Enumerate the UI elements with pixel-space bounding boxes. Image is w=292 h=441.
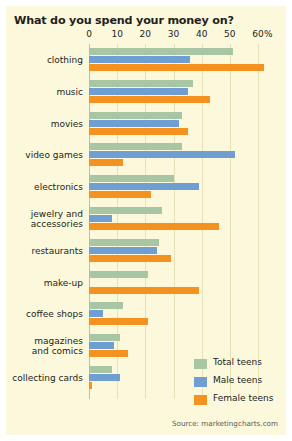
- legend-item: Total teens: [194, 357, 286, 375]
- category-label: video games: [5, 150, 83, 160]
- x-tick-label-20: 20: [140, 29, 151, 39]
- x-tick-label-10: 10: [111, 29, 122, 39]
- bar-female: [89, 191, 151, 198]
- x-tick-label-60: 60: [252, 29, 263, 39]
- x-tick-label-0: 0: [86, 29, 92, 39]
- bar-female: [89, 255, 171, 262]
- chart-title: What do you spend your money on?: [14, 14, 278, 27]
- bar-male: [89, 247, 157, 254]
- category-label: clothing: [5, 55, 83, 65]
- bar-row: music: [89, 80, 258, 104]
- bar-row: electronics: [89, 175, 258, 199]
- bar-female: [89, 318, 148, 325]
- bar-row: magazines and comics: [89, 334, 258, 358]
- bar-female: [89, 96, 210, 103]
- legend-label: Male teens: [213, 375, 262, 385]
- category-label: coffee shops: [5, 309, 83, 319]
- bar-male: [89, 310, 103, 317]
- bar-total: [89, 112, 182, 119]
- bar-total: [89, 80, 193, 87]
- legend-swatch-icon: [194, 359, 207, 369]
- bar-female: [89, 382, 92, 389]
- bar-row: clothing: [89, 48, 258, 72]
- bar-total: [89, 239, 159, 246]
- bar-male: [89, 374, 120, 381]
- legend-label: Total teens: [213, 357, 262, 367]
- bar-total: [89, 48, 233, 55]
- bar-total: [89, 271, 148, 278]
- bar-female: [89, 128, 188, 135]
- bar-female: [89, 350, 128, 357]
- legend-item: Female teens: [194, 393, 286, 411]
- legend-label: Female teens: [213, 393, 273, 403]
- bar-total: [89, 302, 123, 309]
- bar-total: [89, 175, 174, 182]
- bar-male: [89, 151, 235, 158]
- bar-female: [89, 287, 199, 294]
- bar-female: [89, 159, 123, 166]
- bar-male: [89, 56, 190, 63]
- bar-male: [89, 88, 188, 95]
- category-label: movies: [5, 119, 83, 129]
- bar-row: make-up: [89, 271, 258, 295]
- bar-male: [89, 215, 112, 222]
- category-label: electronics: [5, 182, 83, 192]
- category-label: restaurants: [5, 246, 83, 256]
- category-label: collecting cards: [5, 373, 83, 383]
- category-label: jewelry and accessories: [5, 209, 83, 229]
- category-label: make-up: [5, 278, 83, 288]
- category-label: music: [5, 87, 83, 97]
- bar-row: jewelry and accessories: [89, 207, 258, 231]
- bar-row: movies: [89, 112, 258, 136]
- legend-swatch-icon: [194, 395, 207, 405]
- bar-total: [89, 143, 182, 150]
- bar-male: [89, 342, 114, 349]
- chart-legend: Total teensMale teensFemale teens: [194, 357, 286, 411]
- legend-item: Male teens: [194, 375, 286, 393]
- x-tick-label-50: 50: [224, 29, 235, 39]
- bar-male: [89, 120, 179, 127]
- bar-total: [89, 207, 162, 214]
- gridline-60: [258, 44, 259, 399]
- bar-row: video games: [89, 143, 258, 167]
- plot-area: 0102030405060 % clothingmusicmoviesvideo…: [89, 44, 258, 399]
- bar-total: [89, 366, 112, 373]
- bar-female: [89, 223, 219, 230]
- category-label: magazines and comics: [5, 336, 83, 356]
- legend-swatch-icon: [194, 377, 207, 387]
- bar-female: [89, 64, 264, 71]
- x-tick-label-40: 40: [196, 29, 207, 39]
- percent-sign-label: %: [264, 29, 273, 39]
- bar-male: [89, 183, 199, 190]
- source-note: Source: marketingcharts.com: [172, 419, 278, 428]
- bar-row: restaurants: [89, 239, 258, 263]
- x-tick-label-30: 30: [168, 29, 179, 39]
- chart-card: What do you spend your money on? 0102030…: [6, 6, 286, 435]
- bar-total: [89, 334, 120, 341]
- bar-row: coffee shops: [89, 302, 258, 326]
